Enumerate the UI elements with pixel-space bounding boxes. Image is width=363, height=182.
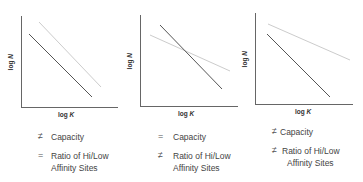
panel-1-dark-line <box>29 34 92 97</box>
panel-3-ratio-text-line2: Affinity Sites <box>287 159 334 168</box>
panel-3-dark-line <box>267 34 330 97</box>
panel-2-x-axis-label: log K <box>178 111 194 118</box>
panel-1-capacity-text: Capacity <box>51 133 84 142</box>
panel-1-light-line <box>39 22 101 87</box>
panel-2-light-line <box>150 35 230 71</box>
panel-3-ratio-symbol: ≠ <box>272 146 277 155</box>
panel-2-y-axis-label: log N <box>127 53 134 69</box>
panel-1-ratio-text-line2: Affinity Sites <box>51 164 98 173</box>
panel-2-capacity-symbol: = <box>158 132 163 141</box>
panel-3-x-axis-label: log K <box>295 109 311 116</box>
panel-3-capacity-symbol: ≠ <box>272 127 277 136</box>
panel-1-x-axis-label: log K <box>58 112 74 119</box>
panel-3-axes <box>255 13 353 105</box>
panel-3-y-axis-label: log N <box>242 51 249 67</box>
panel-1-y-axis-label: log N <box>8 54 15 70</box>
panel-1-capacity-symbol: ≠ <box>38 132 43 141</box>
panel-1-ratio-symbol: = <box>38 151 43 160</box>
panel-2-capacity-text: Capacity <box>173 133 206 142</box>
panel-2-ratio-symbol: ≠ <box>158 151 163 160</box>
panel-3-ratio-text: Ratio of Hi/Low <box>282 147 340 156</box>
panel-2-ratio-text: Ratio of Hi/Low <box>173 152 231 161</box>
panel-3-light-line <box>268 24 350 60</box>
panel-3-capacity-text: Capacity <box>280 128 313 137</box>
panel-1-ratio-text: Ratio of Hi/Low <box>51 152 109 161</box>
panel-2-dark-line <box>160 25 222 89</box>
panel-2-ratio-text-line2: Affinity Sites <box>173 164 220 173</box>
panel-2-axes <box>140 15 238 107</box>
panel-1-axes <box>21 16 118 108</box>
